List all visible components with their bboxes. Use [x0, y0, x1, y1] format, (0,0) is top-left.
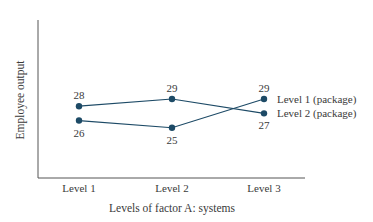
data-point [76, 117, 82, 123]
data-point [169, 96, 175, 102]
data-label: 25 [167, 134, 179, 146]
data-label: 27 [259, 119, 271, 131]
series-line [79, 99, 264, 128]
data-point [261, 96, 267, 102]
series-legend-label: Level 1 (package) [277, 93, 357, 106]
data-label: 28 [74, 89, 86, 101]
x-axis-label: Levels of factor A: systems [109, 202, 235, 215]
data-label: 29 [259, 82, 271, 94]
data-point [261, 110, 267, 116]
y-axis-label: Employee output [14, 60, 27, 140]
series-layer: 282927Level 2 (package)262529Level 1 (pa… [74, 82, 357, 146]
series-legend-label: Level 2 (package) [277, 107, 357, 120]
data-point [76, 103, 82, 109]
data-label: 26 [74, 127, 86, 139]
x-tick-label: Level 2 [155, 182, 188, 194]
x-tick-label: Level 3 [247, 182, 281, 194]
x-tick-label: Level 1 [62, 182, 95, 194]
data-point [169, 125, 175, 131]
x-tick-labels: Level 1Level 2Level 3 [62, 182, 281, 194]
interaction-line-chart: Employee output Levels of factor A: syst… [0, 0, 373, 222]
data-label: 29 [167, 82, 179, 94]
